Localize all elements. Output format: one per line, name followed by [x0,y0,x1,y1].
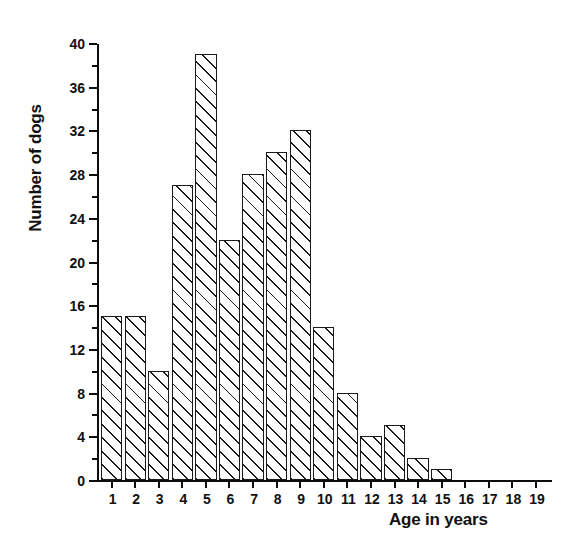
bar [101,316,122,480]
y-tick-minor [92,283,97,285]
y-tick-label: 36 [45,81,85,95]
bar [148,371,169,480]
x-tick [370,481,372,488]
y-tick-minor [92,240,97,242]
y-tick-major [89,218,97,220]
y-tick-label: 0 [45,474,85,488]
y-tick-minor [92,371,97,373]
x-tick [488,481,490,488]
x-tick [111,481,113,488]
x-tick [511,481,513,488]
bar [407,458,428,480]
y-tick-major [89,174,97,176]
y-tick-label: 24 [45,212,85,226]
bar [431,469,452,480]
y-tick-major [89,130,97,132]
y-tick-major [89,349,97,351]
y-tick-minor [92,414,97,416]
x-tick [158,481,160,488]
x-tick [228,481,230,488]
y-tick-minor [92,458,97,460]
bar [195,54,216,480]
x-tick [276,481,278,488]
y-tick-label: 20 [45,256,85,270]
x-tick [535,481,537,488]
y-tick-major [89,262,97,264]
bar [172,185,193,480]
x-tick [181,481,183,488]
y-tick-major [89,393,97,395]
bar [219,240,240,480]
y-tick-label: 28 [45,168,85,182]
y-axis-line [97,44,99,481]
y-tick-major [89,305,97,307]
y-tick-minor [92,65,97,67]
y-tick-minor [92,196,97,198]
x-tick-label: 19 [522,492,552,506]
x-tick [441,481,443,488]
bar [337,393,358,480]
x-tick [464,481,466,488]
y-tick-major [89,43,97,45]
histogram-figure: Number of dogs 0481216202428323640 12345… [0,0,571,544]
bar [242,174,263,480]
y-tick-label: 16 [45,299,85,313]
y-tick-label: 8 [45,387,85,401]
x-tick [205,481,207,488]
x-tick [346,481,348,488]
bar [313,327,334,480]
y-tick-major [89,480,97,482]
y-tick-label: 4 [45,430,85,444]
y-tick-major [89,436,97,438]
x-tick [394,481,396,488]
y-tick-label: 12 [45,343,85,357]
bar [125,316,146,480]
y-tick-label: 40 [45,37,85,51]
bar [266,152,287,480]
y-tick-major [89,87,97,89]
x-tick [323,481,325,488]
y-tick-minor [92,152,97,154]
y-tick-label: 32 [45,124,85,138]
bar [360,436,381,480]
plot-area: 0481216202428323640 12345678910111213141… [97,44,552,481]
bar [290,130,311,480]
bar [384,425,405,480]
x-axis-title: Age in years [389,510,488,530]
y-tick-minor [92,109,97,111]
x-tick [134,481,136,488]
x-tick [252,481,254,488]
y-tick-minor [92,327,97,329]
x-tick [417,481,419,488]
x-tick [299,481,301,488]
